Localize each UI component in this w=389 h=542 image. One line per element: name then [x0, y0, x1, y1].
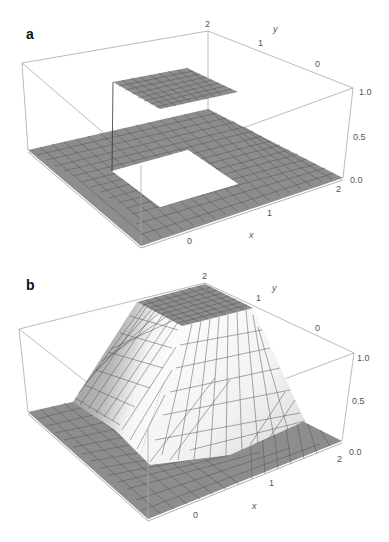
y-tick-2-a: 2 — [205, 19, 210, 29]
z-tick-0-a: 0.0 — [350, 175, 363, 185]
z-tick-1-b: 1.0 — [357, 353, 370, 363]
y-tick-1-b: 1 — [256, 293, 261, 303]
box-right-vertical — [343, 88, 353, 178]
x-tick-1-b: 1 — [269, 478, 274, 488]
z-tick-0-b: 0.0 — [349, 447, 362, 457]
y-axis-label-b: y — [271, 283, 277, 293]
panel-label-b: b — [26, 277, 35, 293]
z-tick-05-a: 0.5 — [353, 132, 366, 142]
x-tick-1-a: 1 — [267, 208, 272, 218]
z-tick-05-b: 0.5 — [352, 396, 365, 406]
z-tick-1-a: 1.0 — [359, 87, 372, 97]
y-tick-2-b: 2 — [202, 271, 207, 281]
x-tick-2-b: 2 — [337, 454, 342, 464]
x-tick-2-a: 2 — [336, 184, 341, 194]
figure: a 2 1 0 y 1.0 0.5 — [0, 0, 389, 542]
panel-a: a 2 1 0 y 1.0 0.5 — [22, 19, 372, 248]
y-tick-0-b: 0 — [315, 323, 320, 333]
panel-b: b — [19, 271, 370, 521]
y-axis-label-a: y — [272, 24, 278, 34]
y-tick-1-a: 1 — [258, 38, 263, 48]
x-axis-label-b: x — [251, 501, 257, 511]
x-axis-label-a: x — [248, 230, 254, 240]
box-left-vertical — [22, 63, 28, 150]
box-left-vertical-b — [19, 329, 28, 412]
y-tick-0-a: 0 — [315, 59, 320, 69]
x-tick-0-b: 0 — [193, 510, 198, 520]
x-tick-0-a: 0 — [187, 236, 192, 246]
panel-label-a: a — [26, 26, 34, 42]
